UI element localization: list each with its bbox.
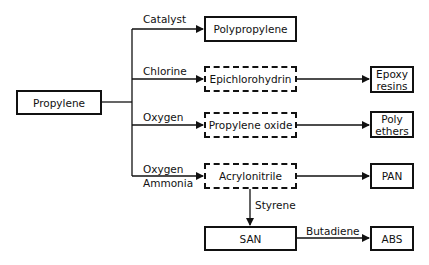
ammonia-label: Ammonia [143, 177, 193, 189]
propylene-oxide-label: Propylene oxide [209, 119, 293, 131]
pan-label: PAN [382, 170, 403, 182]
oxygen-label: Oxygen [143, 111, 183, 123]
epoxy-resins-box: Epoxy resins [370, 66, 414, 93]
pan-box: PAN [370, 163, 414, 189]
poly-label-line1: Poly [381, 113, 403, 125]
san-label: SAN [240, 233, 262, 245]
epoxy-label-line2: resins [376, 80, 407, 92]
polypropylene-label: Polypropylene [213, 23, 287, 35]
propylene-box: Propylene [16, 90, 102, 115]
san-box: SAN [204, 226, 297, 251]
propylene-oxide-box: Propylene oxide [204, 112, 297, 138]
styrene-label: Styrene [255, 199, 296, 211]
acrylonitrile-label: Acrylonitrile [219, 170, 282, 182]
propylene-derivatives-diagram: Propylene Catalyst Chlorine Oxygen Oxyge… [0, 0, 429, 265]
polypropylene-box: Polypropylene [204, 16, 297, 42]
poly-label-line2: ethers [375, 125, 408, 137]
abs-label: ABS [382, 233, 403, 245]
epichlorohydrin-label: Epichlorohydrin [210, 73, 292, 85]
catalyst-label: Catalyst [143, 13, 186, 25]
propylene-label: Propylene [33, 97, 85, 109]
acrylonitrile-box: Acrylonitrile [204, 163, 297, 189]
abs-box: ABS [370, 226, 414, 251]
chlorine-label: Chlorine [143, 65, 187, 77]
epichlorohydrin-box: Epichlorohydrin [204, 66, 297, 92]
epoxy-label-line1: Epoxy [376, 68, 408, 80]
poly-ethers-box: Poly ethers [370, 111, 414, 138]
oxygen-label-2: Oxygen [143, 163, 183, 175]
butadiene-label: Butadiene [306, 225, 360, 237]
